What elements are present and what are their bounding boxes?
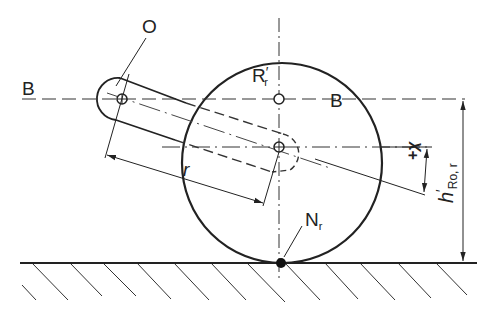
ground-hatching [22, 263, 467, 302]
axis-b-right-label: B [330, 91, 343, 110]
height-label: h′Ro, r [436, 163, 456, 203]
height-main: h [435, 192, 457, 203]
contact-sub: r [319, 220, 323, 232]
chi-reference-line [315, 159, 425, 195]
pivot-leader-line [116, 38, 146, 86]
wheel-circle [182, 63, 382, 263]
wheel-center-sub: r [264, 76, 268, 88]
chi-sign: + [404, 151, 421, 160]
contact-leader-line [284, 226, 302, 257]
axis-b-left-label: B [22, 79, 35, 98]
wheel-center-circle [274, 94, 284, 104]
r-extension-right [263, 152, 279, 206]
pivot-label: O [142, 17, 157, 36]
contact-point-dot [276, 258, 286, 268]
radius-label: r [183, 160, 189, 179]
hidden-arm-link [175, 103, 283, 172]
wheel-center-label: R′r [252, 66, 268, 85]
arm-centerline [107, 93, 330, 168]
height-sub: Ro, r [446, 163, 460, 189]
solid-arm-link [97, 78, 186, 140]
chi-dimension-line [424, 149, 427, 192]
chi-label: +χ [405, 141, 421, 160]
contact-main: N [305, 209, 319, 230]
chi-symbol: χ [404, 141, 421, 150]
contact-label: Nr [305, 210, 322, 229]
r-extension-left [105, 74, 129, 158]
height-prime: ′ [433, 189, 449, 192]
